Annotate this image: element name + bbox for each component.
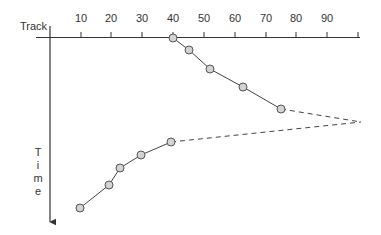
disk-track-time-diagram: Track 102030405060708090 Time xyxy=(0,0,381,235)
tick-label: 10 xyxy=(75,12,87,24)
tick-label: 50 xyxy=(198,12,210,24)
request-marker xyxy=(206,65,214,73)
request-marker xyxy=(169,34,177,42)
tick-label: 70 xyxy=(260,12,272,24)
seek-dashed-lines xyxy=(171,109,361,142)
time-letter: m xyxy=(33,172,42,184)
tick-label: 40 xyxy=(167,12,179,24)
request-marker xyxy=(137,151,145,159)
request-marker xyxy=(239,83,247,91)
tick-label: 30 xyxy=(136,12,148,24)
time-letter: i xyxy=(37,159,39,171)
track-axis-label: Track xyxy=(20,20,48,32)
request-marker xyxy=(105,181,113,189)
time-axis-label: Time xyxy=(33,146,42,197)
tick-label: 60 xyxy=(229,12,241,24)
track-ticks: 102030405060708090 xyxy=(75,12,358,38)
request-marker xyxy=(277,105,285,113)
upper-seek-path xyxy=(169,34,285,113)
lower-seek-path xyxy=(76,138,175,212)
request-marker xyxy=(185,46,193,54)
request-marker xyxy=(76,204,84,212)
request-marker xyxy=(116,164,124,172)
time-letter: T xyxy=(35,146,42,158)
tick-label: 80 xyxy=(290,12,302,24)
tick-label: 20 xyxy=(105,12,117,24)
tick-label: 90 xyxy=(321,12,333,24)
request-marker xyxy=(167,138,175,146)
time-letter: e xyxy=(35,185,41,197)
